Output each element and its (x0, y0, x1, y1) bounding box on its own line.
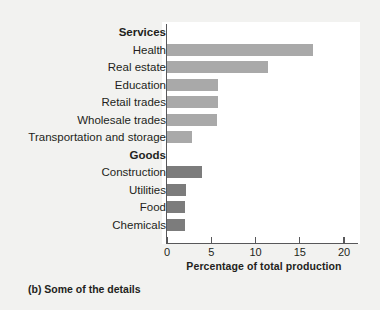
bar-row: Construction (0, 164, 380, 181)
group-header-label: Goods (130, 147, 166, 164)
category-label: Food (140, 199, 166, 216)
bar (167, 166, 202, 178)
bar-row: Wholesale trades (0, 112, 380, 129)
axis-tick-label: 10 (249, 246, 261, 258)
value-axis-line (166, 243, 358, 244)
bar (167, 201, 185, 213)
bar-row: Education (0, 77, 380, 94)
group-header-row: Services (0, 24, 380, 41)
bar (167, 184, 186, 196)
bar (167, 219, 185, 231)
bar (167, 61, 268, 73)
category-label: Wholesale trades (77, 112, 166, 129)
category-label: Retail trades (101, 94, 166, 111)
axis-tick (255, 237, 256, 243)
bar (167, 44, 313, 56)
bar-row: Utilities (0, 182, 380, 199)
axis-tick (343, 237, 344, 243)
x-axis-title: Percentage of total production (166, 260, 362, 272)
category-axis-line (166, 24, 167, 243)
bar-row: Food (0, 199, 380, 216)
group-header-label: Services (119, 24, 166, 41)
category-label: Construction (101, 164, 166, 181)
figure-caption: (b) Some of the details (28, 283, 141, 295)
bar-row: Chemicals (0, 217, 380, 234)
axis-tick (211, 237, 212, 243)
axis-tick (299, 237, 300, 243)
category-label: Education (115, 77, 166, 94)
axis-tick-label: 20 (338, 246, 350, 258)
category-label: Health (133, 42, 166, 59)
bar-row: Health (0, 42, 380, 59)
axis-tick (166, 237, 167, 243)
bar (167, 114, 217, 126)
bar (167, 131, 192, 143)
category-label: Transportation and storage (28, 129, 166, 146)
category-label: Utilities (129, 182, 166, 199)
figure-panel: ServicesHealthReal estateEducationRetail… (0, 0, 380, 310)
axis-tick-label: 5 (208, 246, 214, 258)
bar-row: Retail trades (0, 94, 380, 111)
bar-row: Transportation and storage (0, 129, 380, 146)
axis-tick-label: 15 (294, 246, 306, 258)
category-label: Real estate (108, 59, 166, 76)
bar (167, 96, 218, 108)
bar (167, 79, 218, 91)
bar-row: Real estate (0, 59, 380, 76)
category-label: Chemicals (112, 217, 166, 234)
axis-tick-label: 0 (164, 246, 170, 258)
group-header-row: Goods (0, 147, 380, 164)
